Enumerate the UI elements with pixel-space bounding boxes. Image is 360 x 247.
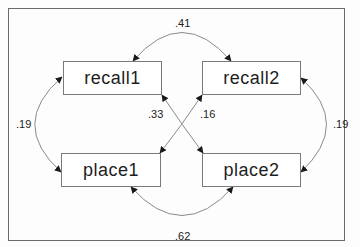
edge-label-recall1-place2: .33 [148,108,163,120]
node-place2: place2 [202,153,301,187]
edge-recall1-place2 [162,95,203,153]
edge-recall2-place1 [160,95,202,153]
edge-recall2-place2 [301,78,327,172]
edge-label-recall2-place2: .19 [333,118,348,130]
diagram-connectors [0,0,360,247]
node-recall1: recall1 [63,61,162,95]
node-place1: place1 [61,153,161,187]
diagram-canvas: recall1 recall2 place1 place2 .41 .19 .1… [0,0,360,247]
node-recall2: recall2 [202,61,301,95]
edge-label-recall1-place1: .19 [16,118,31,130]
edge-recall1-place1 [35,77,62,172]
edge-label-recall2-place1: .16 [200,108,215,120]
edge-place1-place2 [131,187,233,216]
edge-label-recall1-recall2: .41 [175,17,190,29]
edge-label-place1-place2: .62 [175,230,190,242]
edge-recall1-recall2 [133,33,231,62]
